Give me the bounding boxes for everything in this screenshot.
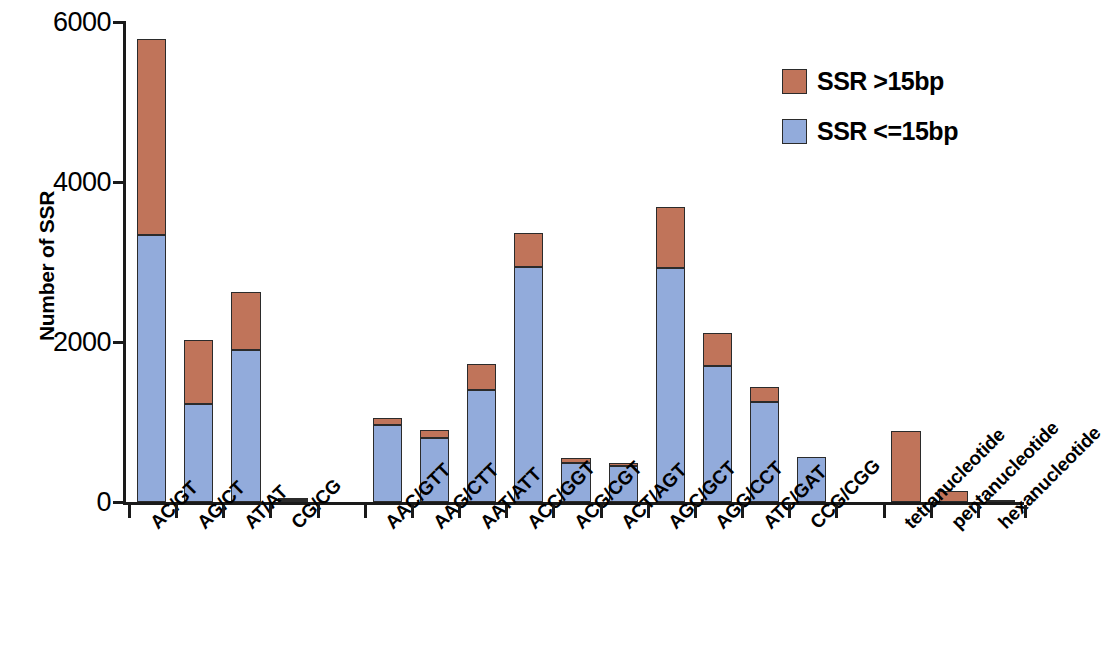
bar-column[interactable] [514,233,543,502]
bar-segment-ssr-lte15bp[interactable] [137,235,166,502]
bar-segment-ssr-gt15bp[interactable] [184,340,213,403]
legend-color-swatch [782,69,807,94]
bar-segment-ssr-gt15bp[interactable] [514,233,543,267]
x-tick-mark [175,505,178,518]
x-tick-mark [883,505,886,518]
bar-segment-ssr-gt15bp[interactable] [656,207,685,267]
x-tick-mark [694,505,697,518]
x-tick-mark [741,505,744,518]
bar-segment-ssr-gt15bp[interactable] [373,418,402,425]
bar-column[interactable] [891,431,920,502]
x-tick-mark [835,505,838,518]
x-tick-mark [647,505,650,518]
legend-label: SSR <=15bp [817,117,958,146]
bar-segment-ssr-gt15bp[interactable] [137,39,166,235]
x-tick-mark [930,505,933,518]
legend-item[interactable]: SSR >15bp [782,66,958,96]
x-tick-mark [600,505,603,518]
legend-color-swatch [782,119,807,144]
bar-segment-ssr-gt15bp[interactable] [703,333,732,366]
y-axis-line [123,22,126,505]
y-tick-label: 6000 [1,7,111,38]
x-tick-mark [505,505,508,518]
bar-column[interactable] [231,292,260,502]
legend-label: SSR >15bp [817,67,944,96]
bar-segment-ssr-gt15bp[interactable] [891,431,920,502]
x-tick-mark [317,505,320,518]
x-tick-mark [977,505,980,518]
y-tick-label: 4000 [1,167,111,198]
x-tick-mark [128,505,131,518]
bar-segment-ssr-gt15bp[interactable] [231,292,260,350]
bar-column[interactable] [137,39,166,502]
x-tick-mark [788,505,791,518]
y-tick-label: 2000 [1,327,111,358]
bar-segment-ssr-lte15bp[interactable] [373,425,402,502]
x-tick-mark [364,505,367,518]
x-tick-mark [411,505,414,518]
legend-item[interactable]: SSR <=15bp [782,116,958,146]
y-tick-label: 0 [1,487,111,518]
x-tick-mark [458,505,461,518]
x-tick-mark [222,505,225,518]
bar-column[interactable] [656,207,685,502]
bar-segment-ssr-gt15bp[interactable] [467,364,496,390]
chart-legend: SSR >15bpSSR <=15bp [782,66,958,166]
bar-segment-ssr-gt15bp[interactable] [750,387,779,402]
bar-column[interactable] [373,418,402,502]
bar-segment-ssr-gt15bp[interactable] [420,430,449,438]
x-tick-mark [1024,505,1027,518]
x-tick-mark [552,505,555,518]
x-tick-mark [269,505,272,518]
